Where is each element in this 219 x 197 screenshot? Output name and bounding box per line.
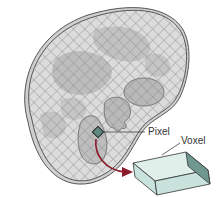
ct-slice-diagram <box>0 0 219 197</box>
diagram-canvas: Pixel Voxel <box>0 0 219 197</box>
pixel-label: Pixel <box>148 127 170 137</box>
voxel-box <box>133 152 210 195</box>
voxel-label: Voxel <box>181 136 205 146</box>
voxel-leader-line <box>162 143 180 155</box>
